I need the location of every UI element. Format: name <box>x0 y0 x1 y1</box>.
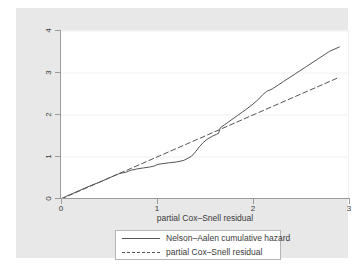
chart-screenshot: 01234 0123 partial Cox–Snell residual Ne… <box>0 0 364 273</box>
x-tick-label: 2 <box>246 204 260 213</box>
y-tick-label: 0 <box>44 192 53 206</box>
legend-item-cox-snell: partial Cox–Snell residual <box>116 246 280 260</box>
y-axis-line <box>60 30 61 199</box>
series-layer <box>61 47 339 199</box>
y-tick-mark <box>55 114 60 115</box>
gridlines <box>61 31 349 157</box>
y-tick-label: 3 <box>44 66 53 80</box>
plot-svg <box>61 31 349 199</box>
y-tick-label: 2 <box>44 108 53 122</box>
x-tick-label: 0 <box>54 204 68 213</box>
y-tick-mark <box>55 156 60 157</box>
series-line-0 <box>61 47 339 199</box>
x-tick-label: 3 <box>342 204 356 213</box>
x-axis-title: partial Cox–Snell residual <box>61 213 349 223</box>
y-tick-mark <box>55 72 60 73</box>
plot-area <box>61 30 349 198</box>
x-tick-label: 1 <box>150 204 164 213</box>
legend: Nelson–Aalen cumulative hazard partial C… <box>115 230 281 260</box>
legend-item-label: partial Cox–Snell residual <box>166 247 262 257</box>
graph-region: 01234 0123 partial Cox–Snell residual Ne… <box>16 8 348 258</box>
y-tick-label: 1 <box>44 150 53 164</box>
y-tick-mark <box>55 30 60 31</box>
legend-item-label: Nelson–Aalen cumulative hazard <box>166 233 290 243</box>
x-axis-line <box>60 198 350 199</box>
legend-item-nelson-aalen: Nelson–Aalen cumulative hazard <box>116 232 280 246</box>
y-tick-label: 4 <box>44 24 53 38</box>
y-tick-mark <box>55 198 60 199</box>
legend-swatch-solid-icon <box>122 238 160 239</box>
legend-swatch-dashed-icon <box>122 252 160 253</box>
